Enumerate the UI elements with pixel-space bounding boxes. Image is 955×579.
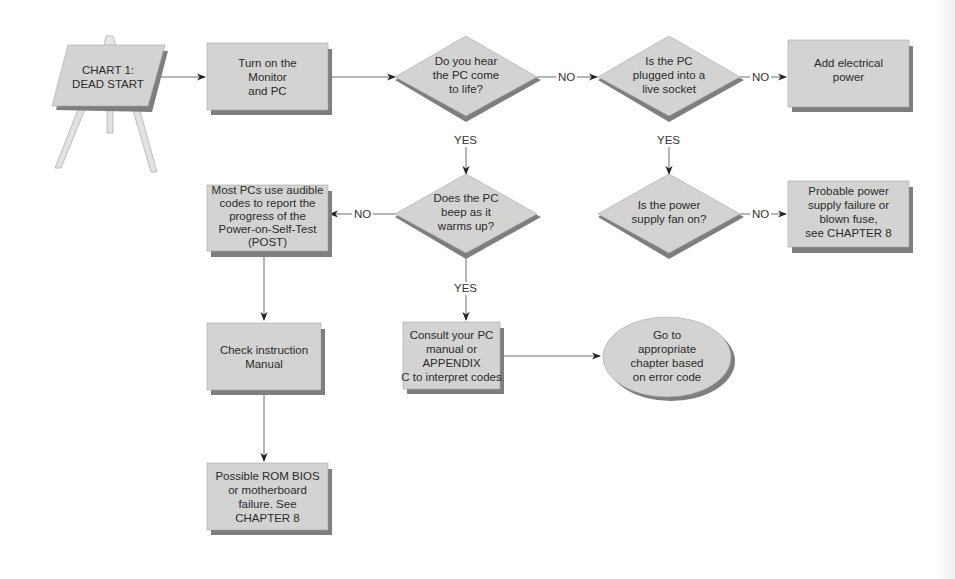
node-check-manual-shape <box>207 323 325 395</box>
node-plugged-in-shape <box>598 36 744 122</box>
node-rom-bios-shape <box>207 463 332 535</box>
edge-label-plugged-in-yes: YES <box>655 134 682 147</box>
node-fan-on-shape <box>598 174 744 259</box>
edge-label-beep-no: NO <box>352 208 373 221</box>
node-beep-shape <box>395 174 541 259</box>
edge-label-hear-pc-no: NO <box>556 71 577 84</box>
edge-label-hear-pc-yes: YES <box>452 134 479 147</box>
node-psu-failure-shape <box>788 181 913 253</box>
node-turn-on-shape <box>207 43 332 115</box>
node-add-power-shape <box>788 40 913 112</box>
node-audible-codes-shape <box>207 185 332 257</box>
edge-label-plugged-in-no: NO <box>750 71 771 84</box>
node-consult-manual-shape <box>403 322 504 394</box>
node-hear-pc-shape <box>395 36 541 122</box>
edge-label-beep-yes: YES <box>452 282 479 295</box>
node-goto-chapter-shape <box>603 317 735 401</box>
edge-label-fan-on-no: NO <box>750 208 771 221</box>
start-easel <box>52 36 168 172</box>
